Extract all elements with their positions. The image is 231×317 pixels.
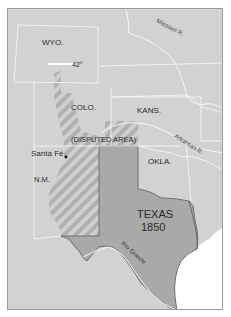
label-42-degrees: 42°: [72, 61, 83, 68]
label-missouri-river: Missouri R.: [156, 18, 186, 38]
map-canvas: WYO. 42° COLO. KANS. (DISPUTED AREA) San…: [8, 9, 223, 310]
label-arkansas-river: Arkansas R.: [173, 133, 204, 156]
label-texas-year: 1850: [141, 221, 165, 233]
map-frame: WYO. 42° COLO. KANS. (DISPUTED AREA) San…: [7, 8, 223, 310]
label-santa-fe: Santa Fé: [31, 149, 64, 158]
label-okla: OKLA.: [148, 157, 172, 166]
label-kans: KANS.: [137, 106, 161, 115]
label-disputed-area: (DISPUTED AREA): [71, 135, 137, 144]
label-wyo: WYO.: [42, 38, 63, 47]
label-nm: N.M.: [34, 175, 50, 184]
santa-fe-dot: [65, 156, 68, 159]
label-colo: COLO.: [71, 103, 96, 112]
missouri-river: [126, 9, 223, 109]
label-texas: TEXAS: [137, 208, 173, 220]
